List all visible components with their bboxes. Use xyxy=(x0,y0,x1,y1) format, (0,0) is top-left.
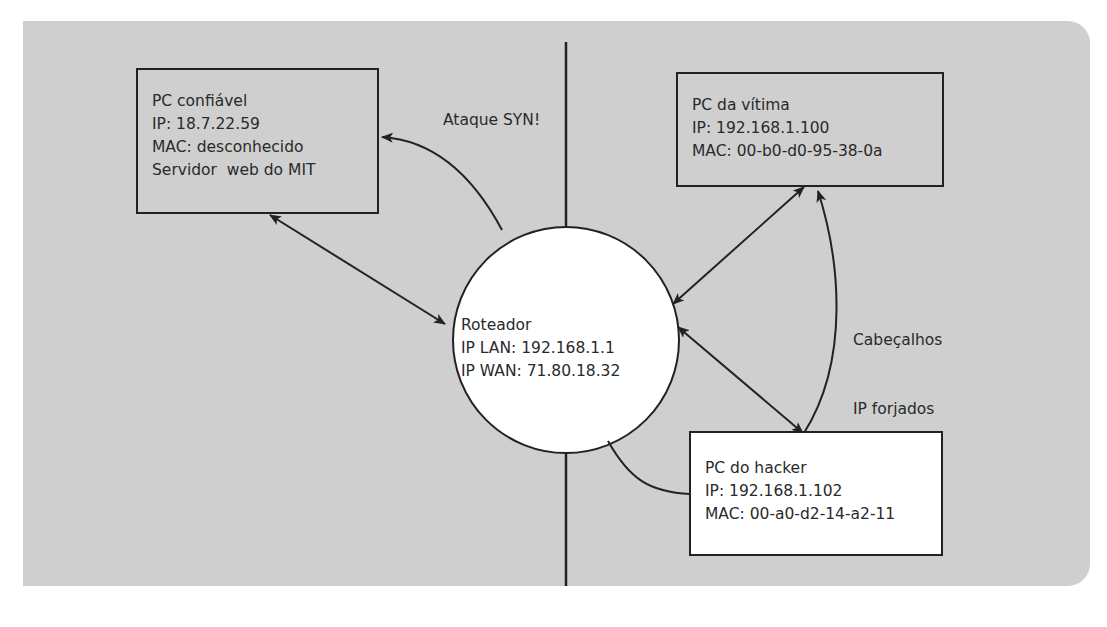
edge-router-victim-pc xyxy=(673,187,804,304)
edge-router-trusted-pc xyxy=(270,215,445,324)
router-wan-ip: IP WAN: 71.80.18.32 xyxy=(461,360,620,383)
syn-attack-label: Ataque SYN! xyxy=(443,109,540,132)
edge-syn-attack xyxy=(382,137,502,230)
victim-pc-title: PC da vítima xyxy=(692,94,928,117)
hacker-pc-mac: MAC: 00-a0-d2-14-a2-11 xyxy=(705,503,927,526)
forged-headers-label: Cabeçalhos IP forjados xyxy=(853,283,942,444)
hacker-pc-node: PC do hacker IP: 192.168.1.102 MAC: 00-a… xyxy=(689,431,943,556)
forged-headers-line-1: Cabeçalhos xyxy=(853,329,942,352)
victim-pc-mac: MAC: 00-b0-d0-95-38-0a xyxy=(692,140,928,163)
victim-pc-node: PC da vítima IP: 192.168.1.100 MAC: 00-b… xyxy=(676,72,944,187)
router-lan-ip: IP LAN: 192.168.1.1 xyxy=(461,337,620,360)
trusted-pc-ip: IP: 18.7.22.59 xyxy=(152,113,363,136)
edge-router-hacker-pc xyxy=(678,327,803,433)
victim-pc-ip: IP: 192.168.1.100 xyxy=(692,117,928,140)
hacker-pc-ip: IP: 192.168.1.102 xyxy=(705,480,927,503)
trusted-pc-desc: Servidor web do MIT xyxy=(152,159,363,182)
forged-headers-line-2: IP forjados xyxy=(853,398,942,421)
trusted-pc-mac: MAC: desconhecido xyxy=(152,136,363,159)
edge-hacker-router-link xyxy=(608,441,690,494)
router-label: Roteador IP LAN: 192.168.1.1 IP WAN: 71.… xyxy=(461,314,620,383)
hacker-pc-title: PC do hacker xyxy=(705,457,927,480)
trusted-pc-node: PC confiável IP: 18.7.22.59 MAC: desconh… xyxy=(136,68,379,214)
edge-forged-ip-headers xyxy=(804,191,837,433)
router-title: Roteador xyxy=(461,314,620,337)
trusted-pc-title: PC confiável xyxy=(152,90,363,113)
